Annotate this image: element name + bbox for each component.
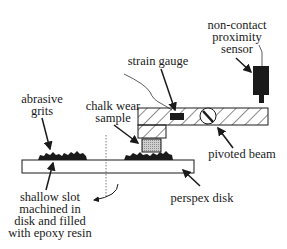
- chalk-sample-label: chalk wear sample: [73, 100, 153, 124]
- perspex-disk-label-text: perspex disk: [164, 192, 240, 204]
- pivot-icon: [200, 108, 216, 124]
- chalk-sample-leader: [114, 125, 138, 143]
- strain-gauge-label: strain gauge: [108, 55, 208, 67]
- abrasive-grits-left: [38, 151, 87, 160]
- pivoted-beam-leader: [218, 128, 233, 148]
- proximity-sensor: [253, 66, 269, 95]
- grits-leader: [42, 118, 50, 149]
- sensor-stem: [259, 95, 264, 103]
- strain-gauge-leader: [161, 69, 175, 110]
- strain-gauge-label-text: strain gauge: [108, 55, 208, 67]
- sensor-label-line-3: sensor: [187, 43, 287, 55]
- perspex-disk-label: perspex disk: [164, 192, 240, 204]
- pivoted-beam-label: pivoted beam: [202, 148, 282, 160]
- perspex-disk: [22, 160, 194, 173]
- pivoted-beam-label-text: pivoted beam: [202, 148, 282, 160]
- sample-holder: [138, 125, 166, 138]
- strain-gauge: [170, 113, 184, 120]
- slot-label: shallow slot machined in disk and filled…: [4, 191, 96, 239]
- abrasive-grits-label: abrasive grits: [12, 93, 72, 117]
- slot-label-line-4: with epoxy resin: [4, 227, 96, 239]
- sensor-leader: [236, 58, 251, 72]
- sensor-label: non-contact proximity sensor: [187, 19, 287, 55]
- chalk-label-line-2: sample: [73, 112, 153, 124]
- chalk-wear-sample: [142, 139, 161, 152]
- grits-label-line-2: grits: [12, 105, 72, 117]
